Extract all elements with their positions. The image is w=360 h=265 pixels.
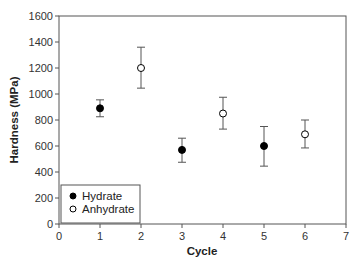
filled-circle-marker [179,146,186,153]
y-tick-label: 400 [35,166,53,178]
y-axis-title: Hardness (MPa) [8,76,20,163]
y-tick-label: 0 [47,218,53,230]
y-tick-label: 1400 [29,36,53,48]
x-axis-title: Cycle [187,245,218,257]
y-tick-label: 1000 [29,88,53,100]
open-circle-marker [220,110,227,117]
y-tick-label: 1200 [29,62,53,74]
x-tick-label: 4 [220,230,226,242]
x-tick-label: 2 [138,230,144,242]
legend-filled-circle-icon [70,193,76,199]
legend-open-circle-icon [70,206,76,212]
y-tick-label: 600 [35,140,53,152]
open-circle-marker [302,131,309,138]
y-tick-label: 200 [35,192,53,204]
x-tick-label: 3 [179,230,185,242]
x-axis-ticks: 01234567 [56,224,349,242]
legend: HydrateAnhydrate [61,185,140,223]
x-tick-label: 7 [343,230,349,242]
filled-circle-marker [97,105,104,112]
hardness-chart: 02004006008001000120014001600 01234567 C… [0,0,360,265]
y-tick-label: 1600 [29,10,53,22]
filled-circle-marker [261,143,268,150]
open-circle-marker [138,65,145,72]
legend-label: Anhydrate [82,203,134,215]
x-tick-label: 6 [302,230,308,242]
x-tick-label: 0 [56,230,62,242]
legend-label: Hydrate [82,190,122,202]
y-tick-label: 800 [35,114,53,126]
x-tick-label: 5 [261,230,267,242]
x-tick-label: 1 [97,230,103,242]
y-axis-ticks: 02004006008001000120014001600 [29,10,59,230]
